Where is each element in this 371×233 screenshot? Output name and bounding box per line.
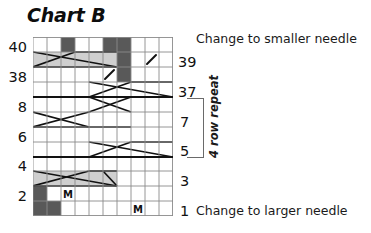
chart-grid-svg: M M (33, 37, 173, 216)
page-title: Chart B (27, 4, 105, 26)
row-label-right-3: 3 (180, 174, 189, 189)
row-label-right-1: 1 (180, 204, 189, 219)
chart-grid: M M (33, 37, 173, 216)
knitting-chart: Chart B (0, 0, 371, 233)
repeat-label: 4 row repeat (207, 100, 221, 158)
row-label-left-38: 38 (5, 70, 27, 85)
row-label-left-4: 4 (5, 159, 27, 174)
row-label-left-8: 8 (5, 100, 27, 115)
row-label-left-6: 6 (5, 130, 27, 145)
repeat-bracket (187, 98, 204, 158)
note-change-larger-needle: Change to larger needle (196, 205, 348, 218)
make-one-symbol: M (63, 189, 73, 200)
row-label-left-40: 40 (5, 40, 27, 55)
note-change-smaller-needle: Change to smaller needle (196, 33, 357, 46)
repeat-label-text: 4 row repeat (207, 88, 221, 158)
row-label-right-39: 39 (178, 55, 196, 70)
row-label-left-2: 2 (5, 189, 27, 204)
make-one-symbol: M (133, 204, 143, 215)
